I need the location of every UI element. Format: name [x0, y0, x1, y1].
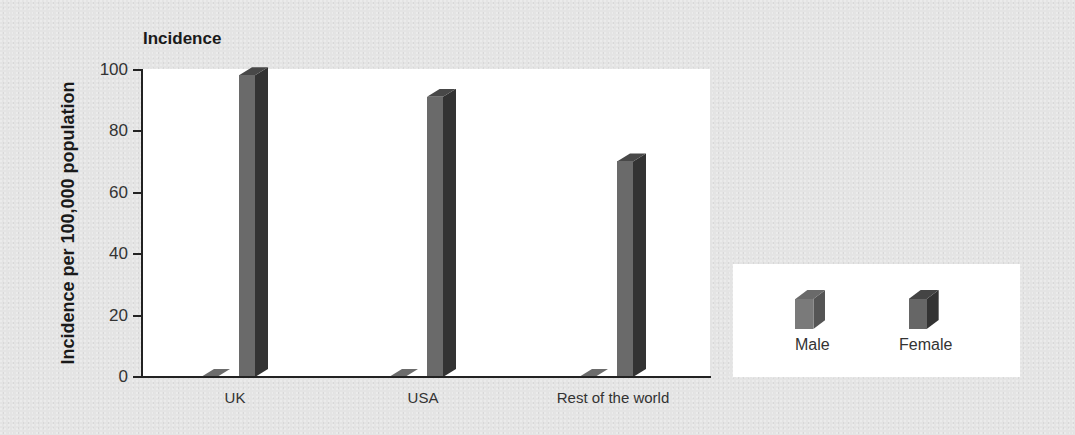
legend-item-male: Male	[795, 290, 830, 354]
y-tick-label: 60	[78, 183, 128, 203]
y-tick-80	[133, 130, 142, 132]
x-label-rest-of-world: Rest of the world	[557, 389, 670, 406]
y-axis-label: Incidence per 100,000 population	[58, 81, 79, 364]
legend-label: Female	[899, 336, 952, 354]
y-tick-label: 20	[78, 306, 128, 326]
male-swatch-icon	[795, 290, 829, 330]
bar-female-rest-of-the-world	[617, 153, 646, 377]
y-tick-0	[133, 376, 142, 378]
y-tick-label: 100	[78, 60, 128, 80]
legend-label: Male	[795, 336, 830, 354]
x-label-uk: UK	[225, 389, 246, 406]
chart-title: Incidence	[143, 29, 221, 49]
y-tick-label: 0	[78, 367, 128, 387]
y-tick-60	[133, 192, 142, 194]
y-tick-20	[133, 315, 142, 317]
x-label-usa: USA	[408, 389, 439, 406]
y-tick-40	[133, 253, 142, 255]
y-tick-100	[133, 69, 142, 71]
bar-female-usa	[427, 89, 456, 377]
bar-female-uk	[239, 67, 268, 377]
y-tick-label: 80	[78, 121, 128, 141]
female-swatch-icon	[909, 290, 943, 330]
y-tick-label: 40	[78, 244, 128, 264]
x-axis-line	[141, 376, 711, 378]
legend: Male Female	[733, 264, 1020, 377]
y-axis-line	[141, 69, 143, 378]
legend-item-female: Female	[899, 290, 952, 354]
